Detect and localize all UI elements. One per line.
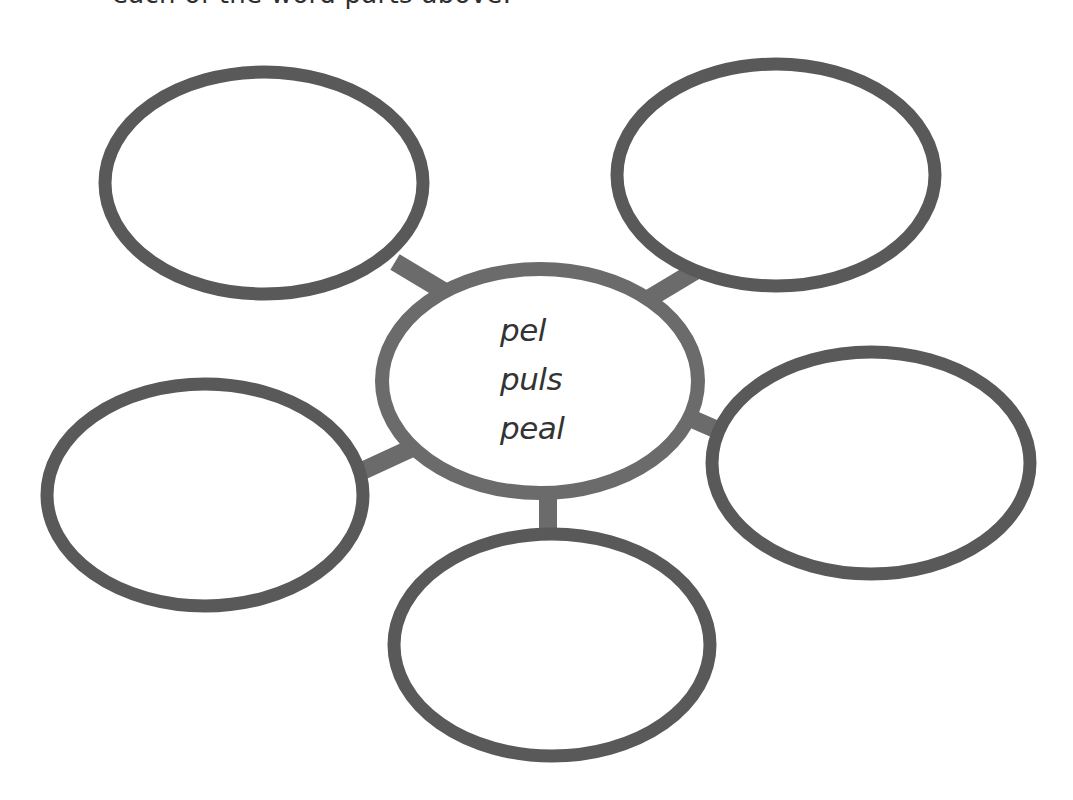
node-right[interactable] <box>712 352 1030 574</box>
center-word-puls: puls <box>500 355 564 404</box>
center-word-list: pel puls peal <box>500 306 564 453</box>
connector-left <box>360 448 412 472</box>
node-left[interactable] <box>47 384 363 606</box>
connector-top-left <box>395 262 445 292</box>
node-top-right[interactable] <box>617 64 935 286</box>
center-word-pel: pel <box>500 306 564 355</box>
center-word-peal: peal <box>500 404 564 453</box>
node-top-left[interactable] <box>105 72 423 294</box>
node-bottom[interactable] <box>394 534 710 756</box>
